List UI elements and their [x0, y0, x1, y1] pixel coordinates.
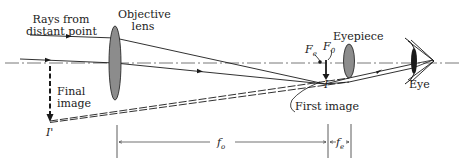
objective-lens-label: Objective lens	[118, 9, 168, 32]
rays-label: Rays from distant point	[26, 14, 96, 37]
final-image-arrow	[47, 66, 54, 122]
fe-letter: F	[305, 43, 313, 56]
final-image-symbol: I'	[46, 127, 53, 138]
final-image-label: Final image	[57, 86, 91, 109]
rays-label-line2: distant point	[26, 26, 96, 37]
focal-point-fo-label: F0	[323, 41, 335, 57]
objective-label-line2: lens	[118, 21, 168, 32]
fo-dim-subscript: o	[221, 143, 225, 151]
fo-dimension-label: fo	[217, 137, 225, 153]
fe-dimension-label: fe	[336, 137, 344, 153]
objective-label-line1: Objective	[118, 9, 168, 20]
eyepiece-label: Eyepiece	[333, 31, 384, 42]
final-label-line2: image	[57, 98, 91, 109]
fe-dim-subscript: e	[340, 143, 344, 151]
incoming-ray-lower	[20, 58, 325, 84]
fo-letter: F	[323, 40, 331, 53]
first-image-symbol: I	[324, 79, 328, 90]
first-image-label: First image	[295, 101, 359, 112]
rays-label-line1: Rays from	[26, 14, 96, 25]
incoming-ray-upper	[30, 34, 325, 84]
dimension-lines	[117, 124, 351, 158]
eye-label: Eye	[409, 79, 430, 90]
objective-lens	[109, 26, 121, 100]
fe-subscript: e	[313, 50, 317, 58]
final-label-line1: Final	[57, 86, 91, 97]
telescope-diagram: Rays from distant point Objective lens E…	[0, 0, 465, 166]
eyepiece-lens	[344, 44, 355, 78]
fo-subscript: 0	[331, 47, 335, 55]
focal-point-fe-label: Fe	[305, 44, 317, 60]
